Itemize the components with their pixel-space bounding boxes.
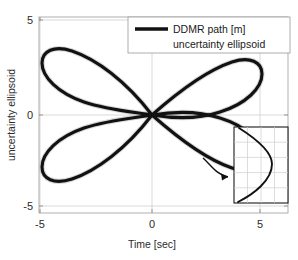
legend[interactable]: DDMR path [m] uncertainty ellipsoid <box>128 17 290 53</box>
chart-figure: DDMR path [m] uncertainty ellipsoid 5 0 … <box>0 0 298 260</box>
zoom-inset <box>234 127 288 203</box>
xtick-label-neg5: -5 <box>35 218 45 230</box>
ytick-label-neg5: -5 <box>23 200 33 212</box>
x-axis-title: Time [sec] <box>128 238 176 250</box>
legend-label-path: DDMR path [m] <box>173 23 245 35</box>
chart-canvas: DDMR path [m] uncertainty ellipsoid 5 0 … <box>0 0 298 260</box>
xtick-label-5: 5 <box>257 218 263 230</box>
ytick-label-5: 5 <box>27 14 33 26</box>
y-axis-title: uncertainty ellipsoid <box>5 69 17 161</box>
legend-label-ellipsoid: uncertainty ellipsoid <box>173 38 265 50</box>
ytick-label-0: 0 <box>27 109 33 121</box>
xtick-label-0: 0 <box>149 218 155 230</box>
